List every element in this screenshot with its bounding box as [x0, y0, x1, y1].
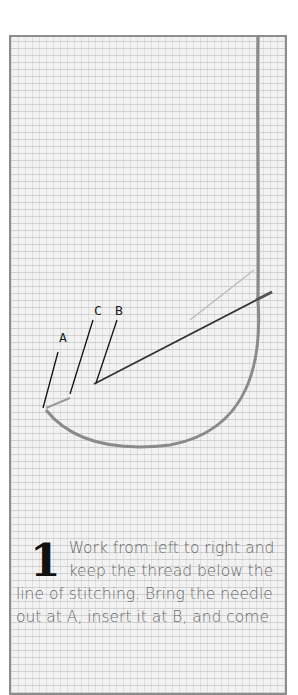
point-label-b: B: [115, 303, 123, 318]
step-number: 1: [30, 541, 61, 581]
point-label-a: A: [59, 330, 67, 345]
point-label-c: C: [94, 303, 102, 318]
instruction-caption: 1 Work from left to right and keep the t…: [16, 537, 282, 629]
